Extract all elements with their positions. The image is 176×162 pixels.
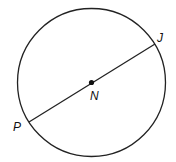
label-p: P <box>13 120 21 134</box>
circle-diagram: J N P <box>0 0 176 162</box>
label-j: J <box>156 31 164 45</box>
center-point-n <box>89 80 94 85</box>
label-n: N <box>90 89 99 103</box>
